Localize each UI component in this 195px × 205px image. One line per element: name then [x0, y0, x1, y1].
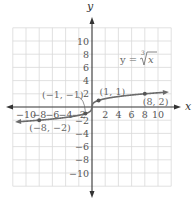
y-tick-label: 10 [77, 36, 89, 47]
y-tick-label: 2 [83, 88, 89, 99]
y-axis-up-arrow-icon [90, 17, 95, 24]
x-axis-label: x [185, 100, 192, 113]
data-point [97, 98, 101, 102]
point-label: (−8, −2) [29, 122, 70, 133]
x-axis-right-arrow-icon [174, 105, 181, 110]
x-tick-label: 10 [152, 109, 164, 120]
x-tick-label: 6 [129, 109, 135, 120]
x-tick-label: 8 [142, 109, 148, 120]
equation-prefix: y = [119, 54, 137, 65]
x-tick-label: 4 [115, 109, 121, 120]
equation-radicand: x [148, 54, 154, 65]
y-tick-label: 6 [83, 62, 89, 73]
y-tick-label: −4 [75, 128, 89, 139]
x-axis-left-arrow-icon [6, 105, 13, 110]
y-tick-label: −6 [75, 141, 89, 152]
y-tick-label: −8 [75, 154, 89, 165]
y-tick-label: −10 [69, 168, 89, 179]
y-tick-label: 8 [83, 49, 89, 60]
point-label: (−1, −1) [42, 89, 83, 100]
equation-index: 3 [141, 49, 145, 56]
y-axis-label: y [86, 0, 94, 13]
point-label: (8, 2) [143, 96, 169, 107]
data-point [83, 112, 87, 116]
cube-root-graph: x y −10−8−6−4−2246810108642−2−4−6−8−10 (… [0, 0, 195, 205]
y-axis-down-arrow-icon [90, 191, 95, 198]
x-tick-label: 2 [102, 109, 108, 120]
point-label: (1, 1) [100, 86, 126, 97]
y-tick-label: 4 [83, 75, 89, 86]
equation-label: y = 3 x [119, 49, 157, 65]
